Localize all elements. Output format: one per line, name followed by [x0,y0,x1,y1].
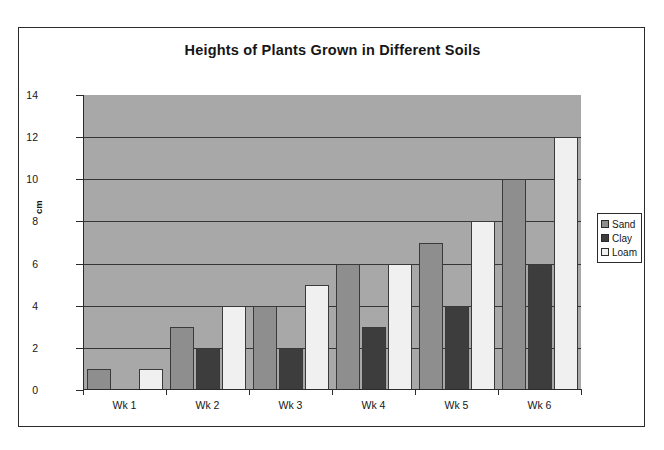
legend-swatch-loam [601,248,609,256]
bar-group [84,95,167,390]
y-tick-label: 6 [0,258,38,270]
bar-loam [471,221,495,390]
x-tick-label: Wk 6 [498,399,581,411]
x-tick-label: Wk 4 [332,399,415,411]
bar-loam [305,285,329,390]
x-tick-mark [415,389,416,395]
bar-group [332,95,415,390]
x-tick-label: Wk 2 [166,399,249,411]
bar-loam [554,137,578,390]
y-tick-label: 4 [0,300,38,312]
y-tick-mark [76,221,83,222]
bar-sand [336,264,360,390]
legend-swatch-sand [601,220,609,228]
bar-sand [253,306,277,390]
x-tick-label: Wk 3 [249,399,332,411]
y-tick-label: 0 [0,384,38,396]
bar-sand [502,179,526,390]
y-tick-mark [76,179,83,180]
legend-label-loam: Loam [612,247,637,258]
bar-group [415,95,498,390]
bar-clay [279,348,303,390]
y-tick-label: 12 [0,131,38,143]
bar-loam [388,264,412,390]
bar-group [167,95,250,390]
chart-title: Heights of Plants Grown in Different Soi… [19,42,646,58]
y-tick-mark [76,95,83,96]
chart-frame: Heights of Plants Grown in Different Soi… [18,27,645,427]
bar-sand [419,243,443,391]
bar-groups [84,95,581,390]
y-tick-mark [76,137,83,138]
x-tick-mark [249,389,250,395]
y-tick-label: 10 [0,173,38,185]
chart-screenshot: Heights of Plants Grown in Different Soi… [0,0,664,450]
y-tick-mark [76,306,83,307]
legend-item-loam: Loam [601,245,637,259]
y-tick-label: 14 [0,89,38,101]
chart-legend: Sand Clay Loam [597,213,642,263]
bar-loam [139,369,163,390]
legend-item-sand: Sand [601,217,637,231]
bar-sand [170,327,194,390]
x-tick-label: Wk 1 [83,399,166,411]
x-tick-mark [498,389,499,395]
bar-loam [222,306,246,390]
y-tick-mark [76,264,83,265]
bar-group [250,95,333,390]
y-tick-label: 8 [0,215,38,227]
x-tick-mark [83,389,84,395]
bar-clay [196,348,220,390]
x-tick-mark [332,389,333,395]
legend-label-sand: Sand [612,219,635,230]
plot-area [83,95,581,390]
legend-label-clay: Clay [612,233,632,244]
bar-sand [87,369,111,390]
bar-clay [445,306,469,390]
legend-swatch-clay [601,234,609,242]
bar-group [498,95,581,390]
x-tick-mark [581,389,582,395]
bar-clay [528,264,552,390]
y-tick-mark [76,348,83,349]
x-tick-mark [166,389,167,395]
legend-item-clay: Clay [601,231,637,245]
y-tick-label: 2 [0,342,38,354]
y-tick-mark [76,390,83,391]
bar-clay [362,327,386,390]
y-axis-title: cm [33,200,44,214]
x-tick-label: Wk 5 [415,399,498,411]
